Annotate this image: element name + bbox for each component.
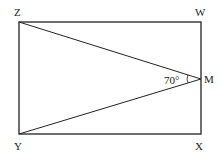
angle-label: 70°: [164, 74, 179, 86]
segment-zm: [19, 22, 201, 79]
angle-arc-m: [187, 75, 188, 83]
geometry-diagram: Z W X Y M 70°: [0, 0, 221, 157]
vertex-label-m: M: [204, 73, 214, 85]
vertex-label-y: Y: [14, 140, 22, 152]
vertex-label-w: W: [195, 6, 206, 18]
vertex-label-x: X: [195, 140, 203, 152]
vertex-label-z: Z: [14, 6, 21, 18]
segment-ym: [19, 79, 201, 134]
